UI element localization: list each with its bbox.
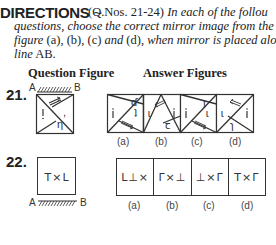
question-figure-header: Question Figure — [28, 66, 114, 81]
option-label-c: (c) — [191, 136, 203, 147]
answer-option-d[interactable]: ɩ ɿ — [216, 94, 254, 133]
mirror-hatch-icon — [38, 200, 78, 208]
directions-line4-ab: AB. — [35, 47, 56, 61]
svg-text:,: , — [63, 106, 66, 118]
question-figure-text: T×L — [37, 171, 77, 184]
answer-option-d[interactable]: T×Γ — [229, 159, 265, 195]
option-label-b: (b) — [155, 136, 167, 147]
mirror-label-a: A — [29, 197, 36, 208]
directions-line3-and: and — [104, 33, 123, 47]
option-label-a: (a) — [117, 136, 129, 147]
question-number: 22. — [6, 153, 27, 170]
mirror-hatch-icon — [37, 85, 73, 93]
answer-figures-header: Answer Figures — [143, 66, 227, 81]
answer-option-c[interactable]: ɿ ɩ — [180, 94, 217, 133]
directions-line3-d: (d), — [126, 33, 144, 47]
option-label-d: (d) — [229, 136, 241, 147]
answer-option-c[interactable]: ⊥×Γ — [192, 159, 229, 195]
directions-line3-b: when mirror is placed along — [147, 33, 276, 47]
answer-option-a[interactable]: ɗ ʇ — [107, 94, 144, 133]
mirror-label-b: B — [80, 197, 87, 208]
option-label-b: (b) — [166, 200, 178, 211]
mirror-label-a: A — [29, 82, 36, 93]
option-text: L⊥× — [117, 171, 153, 184]
answer-options: L⊥× Γ×⊥ ⊥×Γ T×Γ — [116, 158, 266, 196]
option-label-d: (d) — [241, 200, 253, 211]
directions-line4: line — [14, 47, 33, 61]
mirror-label-b: B — [74, 82, 81, 93]
answer-option-b[interactable]: ɩ ꞇ — [143, 94, 181, 133]
option-text: Γ×⊥ — [154, 171, 190, 184]
question-number: 21. — [6, 86, 27, 103]
answer-option-a[interactable]: L⊥× — [117, 159, 154, 195]
option-label-c: (c) — [203, 200, 215, 211]
directions-line3-options: (a), (b), (c) — [47, 33, 102, 47]
option-label-a: (a) — [128, 200, 140, 211]
answer-option-b[interactable]: Γ×⊥ — [154, 159, 191, 195]
svg-text:ɿ: ɿ — [230, 119, 234, 131]
svg-text:ʇ: ʇ — [134, 107, 137, 119]
directions-line2: questions, choose the correct mirror ima… — [14, 19, 276, 33]
option-text: ⊥×Γ — [192, 171, 228, 184]
question-figure: , η — [36, 94, 74, 134]
directions-line1: In each of the follou — [167, 5, 268, 19]
directions-line3-a: figure — [14, 33, 43, 47]
svg-text:η: η — [57, 118, 63, 130]
directions-qnos: (Q.Nos. 21-24) — [88, 5, 164, 19]
option-text: T×Γ — [229, 171, 265, 184]
